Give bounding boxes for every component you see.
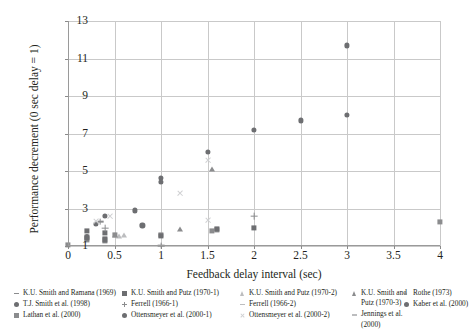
legend-item[interactable]: Ferrell (1966-1) (122, 299, 238, 309)
x-tick-label: 4 (437, 250, 443, 262)
x-axis-title: Feedback delay interval (sec) (68, 268, 440, 280)
gridline-vertical (394, 21, 395, 246)
legend-label: Ferrell (1966-2) (249, 299, 352, 309)
x-tick-mark (254, 246, 255, 249)
legend-item[interactable]: K.U. Smith and Putz (1970-1) (122, 288, 238, 298)
legend-marker-circle-icon (14, 302, 19, 307)
legend-label: Lathan et al. (2000) (23, 310, 122, 320)
x-tick-label: 0 (65, 250, 71, 262)
y-tick-mark (65, 171, 68, 172)
legend-label: Jennings et al. (2000) (361, 309, 414, 329)
data-point[interactable] (88, 220, 95, 221)
legend-item[interactable]: K.U. Smith and Putz (1970-2) (240, 288, 352, 298)
legend-item[interactable]: Ottensmeyer et al. (2000-2) (240, 310, 352, 320)
data-point[interactable] (69, 228, 76, 229)
legend-item[interactable]: Kaber et al. (2000) (404, 299, 473, 309)
x-tick-label: 0.5 (107, 250, 121, 262)
legend-marker-x-icon (240, 313, 245, 318)
gridline-vertical (301, 21, 302, 246)
legend-item[interactable]: T.J. Smith et al. (1998) (14, 299, 122, 309)
data-point[interactable] (158, 233, 163, 238)
data-point[interactable] (102, 225, 109, 232)
data-point[interactable] (251, 213, 258, 220)
legend-label: Ottensmeyer et al. (2000-1) (131, 310, 238, 320)
x-tick-mark (208, 246, 209, 249)
x-tick-mark (440, 246, 441, 249)
legend-column: K.U. Smith and Putz (1970-1)Ferrell (196… (122, 288, 238, 322)
legend-marker-dot-icon (404, 292, 407, 295)
legend-item[interactable]: Ottensmeyer et al. (2000-1) (122, 310, 238, 320)
x-tick-label: 2 (251, 250, 257, 262)
x-tick-mark (68, 246, 69, 249)
legend-label: T.J. Smith et al. (1998) (23, 299, 122, 309)
legend-marker-circle-icon (404, 302, 409, 307)
legend-marker-triangle-icon (352, 291, 356, 296)
legend-item[interactable]: Lathan et al. (2000) (14, 310, 122, 320)
x-tick-mark (347, 246, 348, 249)
data-point[interactable] (214, 227, 219, 232)
legend-label: Ferrell (1966-1) (131, 299, 238, 309)
y-tick-mark (65, 134, 68, 135)
data-point[interactable] (103, 237, 108, 242)
legend-marker-triangle-icon (240, 291, 244, 296)
legend-marker-square-icon (14, 313, 19, 318)
legend-label: Rothe (1973) (413, 288, 473, 298)
legend-column: K.U. Smith and Putz (1970-2)Ferrell (196… (240, 288, 352, 322)
x-tick-label: 1.5 (200, 250, 214, 262)
x-tick-mark (301, 246, 302, 249)
gridline-vertical (161, 21, 162, 246)
x-tick-label: 3 (344, 250, 350, 262)
gridline-vertical (208, 21, 209, 246)
x-tick-label: 1 (158, 250, 164, 262)
x-tick-mark (115, 246, 116, 249)
legend-marker-square-icon (122, 291, 127, 296)
y-tick-mark (65, 59, 68, 60)
legend-column: K.U. Smith and Ramana (1969)T.J. Smith e… (14, 288, 122, 322)
data-point[interactable] (177, 227, 183, 232)
data-point[interactable] (72, 183, 79, 184)
y-axis-title: Performance decrement (0 sec delay = 1) (28, 19, 40, 259)
data-point[interactable] (112, 232, 118, 237)
data-point[interactable] (176, 190, 183, 197)
data-point[interactable] (209, 167, 215, 172)
data-point[interactable] (153, 164, 160, 165)
y-tick-mark (65, 21, 68, 22)
legend-item[interactable]: Jennings et al. (2000) (352, 309, 414, 329)
x-tick-mark (394, 246, 395, 249)
y-tick-mark (65, 209, 68, 210)
legend-label: K.U. Smith and Putz (1970-1) (131, 288, 238, 298)
legend-item[interactable]: Rothe (1973) (404, 288, 473, 298)
legend-item[interactable]: K.U. Smith and Ramana (1969) (14, 288, 122, 298)
x-tick-mark (161, 246, 162, 249)
data-point[interactable] (204, 156, 211, 163)
plot-area: 135791113 00.511.522.533.54 (68, 21, 440, 246)
chart-legend: K.U. Smith and Ramana (1969)T.J. Smith e… (0, 288, 473, 336)
legend-label: K.U. Smith and Ramana (1969) (23, 288, 122, 298)
y-tick-mark (65, 96, 68, 97)
legend-label: K.U. Smith and Putz (1970-2) (249, 288, 352, 298)
x-tick-label: 3.5 (386, 250, 400, 262)
legend-label: Kaber et al. (2000) (413, 299, 473, 309)
legend-marker-dash-icon (352, 314, 357, 315)
legend-marker-plus-icon (122, 302, 127, 307)
data-point[interactable] (251, 226, 256, 231)
gridline-vertical (347, 21, 348, 246)
data-point[interactable] (204, 217, 211, 224)
legend-label: Ottensmeyer et al. (2000-2) (249, 310, 352, 320)
gridline-vertical (115, 21, 116, 246)
data-point[interactable] (437, 219, 442, 224)
legend-marker-dash-icon (240, 304, 245, 305)
legend-marker-dash-icon (14, 293, 19, 294)
data-point[interactable] (92, 161, 99, 162)
legend-column: Rothe (1973)Kaber et al. (2000) (404, 288, 473, 310)
x-tick-label: 2.5 (293, 250, 307, 262)
gridline-vertical (440, 21, 441, 246)
legend-item[interactable]: Ferrell (1966-2) (240, 299, 352, 309)
legend-marker-circle-icon (122, 313, 127, 318)
chart-page: 135791113 00.511.522.533.54 Feedback del… (0, 0, 473, 336)
data-point[interactable] (107, 213, 114, 220)
